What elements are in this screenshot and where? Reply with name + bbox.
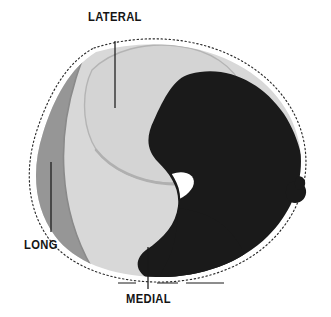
- label-lateral: LATERAL: [88, 10, 142, 23]
- label-medial: MEDIAL: [126, 292, 171, 305]
- label-long: LONG: [24, 238, 58, 251]
- cross-section-svg: [0, 0, 331, 317]
- anatomical-cross-section-figure: LATERAL LONG MEDIAL: [0, 0, 331, 317]
- body-regions: [0, 0, 331, 317]
